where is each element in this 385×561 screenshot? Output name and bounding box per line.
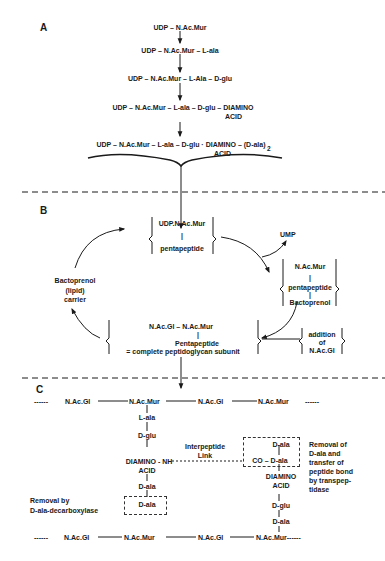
- lipid-box-2: pentapeptide: [288, 284, 332, 291]
- chain-top-nacgl-1: N.Ac.Gl: [65, 398, 90, 405]
- right-stem-acid: ACID: [272, 482, 289, 489]
- step-5: UDP – N.Ac.Mur – L-ala – D-glu · DIAMINO…: [96, 141, 265, 148]
- section-label-b: B: [40, 206, 47, 216]
- removal-right-1: Removal of: [309, 441, 347, 448]
- chain-bottom-nacgl-2: N.Ac.Gl: [198, 534, 223, 541]
- left-stem-dglu: D-glu: [138, 432, 156, 439]
- right-stem-diamino: DIAMINO: [266, 473, 296, 480]
- left-stem-dala-2: D-ala: [138, 501, 155, 508]
- step-4: UDP – N.Ac.Mur – L-ala – D-glu – DIAMINO: [112, 104, 253, 111]
- step-1: UDP – N.Ac.Mur: [153, 24, 206, 31]
- lipid-box-1: N.Ac.Mur: [295, 263, 326, 270]
- removal-right-6: tidase: [309, 486, 329, 493]
- chain-bottom-nacmur-2: N.Ac.Mur------: [256, 534, 301, 541]
- right-stem-dglu: D-glu: [272, 502, 290, 509]
- addition-1: addition: [308, 331, 335, 338]
- left-stem-dala-1: D-ala: [138, 483, 155, 490]
- subunit-3: = complete peptidoglycan subunit: [126, 348, 239, 355]
- chain-top-nacmur-1: N.Ac.Mur: [129, 398, 160, 405]
- lipid-box-bar2: |: [309, 291, 311, 298]
- interpeptide-label-2: Link: [198, 452, 212, 459]
- chain-top-dash-left: ------: [34, 398, 48, 405]
- ump-label: UMP: [280, 231, 296, 238]
- removal-right-2: D-ala and: [309, 450, 341, 457]
- udp-box-bottom: pentapeptide: [160, 245, 204, 252]
- chain-bottom-nacmur-1: N.Ac.Mur: [124, 534, 155, 541]
- interpeptide-label-1: Interpeptide: [185, 443, 225, 450]
- step-5-subscript: 2: [267, 146, 271, 153]
- step-5-acid: ACID: [214, 150, 231, 157]
- udp-box-top: UDP.N.Ac.Mur: [159, 220, 206, 227]
- carrier-2: (lipid): [65, 287, 84, 294]
- lipid-box-3: Bactoprenol: [290, 299, 331, 306]
- subunit-1: N.Ac.Gl – N.Ac.Mur: [149, 323, 213, 330]
- removal-left-2: D-ala-decarboxylase: [30, 507, 98, 514]
- right-stem-dala-1: D-ala: [272, 441, 289, 448]
- chain-top-dash-right: ------: [305, 398, 319, 405]
- carrier-3: carrier: [64, 296, 86, 303]
- step-2: UDP – N.Ac.Mur – L-ala: [141, 47, 218, 54]
- removal-right-4: peptide bond: [309, 468, 353, 475]
- right-stem-dala-2: D-ala: [272, 518, 289, 525]
- udp-box-bar: |: [181, 232, 183, 239]
- removal-right-3: transfer of: [309, 459, 344, 466]
- removal-left-1: Removal by: [30, 497, 69, 504]
- left-stem-acid: ACID: [138, 467, 155, 474]
- right-stem-co-dala: CO – D-ala: [252, 457, 287, 464]
- subunit-bar: |: [197, 331, 199, 338]
- addition-3: N.Ac.Gl: [309, 347, 334, 354]
- step-3: UDP – N.Ac.Mur – L-Ala – D-glu: [128, 75, 232, 82]
- lipid-box-bar1: |: [309, 274, 311, 281]
- addition-2: of: [319, 339, 326, 346]
- left-stem-lala: L-ala: [139, 414, 155, 421]
- section-label-a: A: [40, 23, 47, 33]
- chain-top-nacmur-2: N.Ac.Mur: [258, 398, 289, 405]
- subunit-2: Pentapeptide: [175, 340, 219, 347]
- section-label-c: C: [36, 385, 43, 395]
- chain-bottom-nacgl-1: N.Ac.Gl: [64, 534, 89, 541]
- chain-top-nacgl-2: N.Ac.Gl: [198, 398, 223, 405]
- left-stem-diamino: DIAMINO - NH: [126, 458, 173, 465]
- chain-bottom-dash-left: ------: [34, 534, 48, 541]
- removal-right-5: by transpep-: [309, 477, 351, 484]
- carrier-1: Bactoprenol: [55, 277, 96, 284]
- step-4-acid: ACID: [225, 113, 242, 120]
